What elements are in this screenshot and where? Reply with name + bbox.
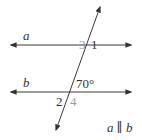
angle-3-label: 3 [79, 37, 86, 52]
angle-70-label: 70° [76, 76, 94, 91]
parallel-lines-diagram: a b 3 1 70° 2 4 a ∥ b [0, 0, 142, 140]
line-a-label: a [23, 28, 30, 43]
angle-1-label: 1 [91, 37, 98, 52]
angle-2-label: 2 [56, 94, 63, 109]
angle-4-label: 4 [70, 94, 77, 109]
parallel-symbol: ∥ [117, 120, 123, 135]
parallel-statement: a ∥ b [107, 120, 133, 135]
statement-right: b [126, 120, 133, 135]
transversal-line [56, 7, 100, 130]
statement-left: a [107, 120, 114, 135]
line-b-label: b [23, 75, 30, 90]
